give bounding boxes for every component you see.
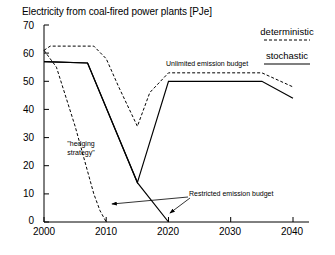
series-line-2 (44, 50, 106, 222)
y-axis-ticks (44, 25, 49, 222)
series-line-0 (44, 46, 293, 126)
chart-figure: Electricity from coal-fired power plants… (0, 0, 335, 255)
series-layer (44, 46, 293, 222)
series-line-1 (44, 62, 293, 183)
chart-plot-area (0, 0, 335, 255)
leader-restricted-right (170, 198, 190, 213)
